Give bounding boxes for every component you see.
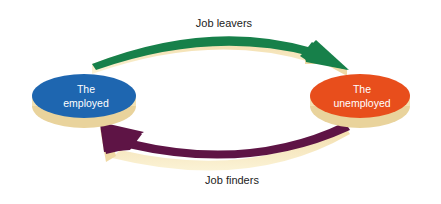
unemployed-label: The unemployed xyxy=(333,82,390,110)
job-leavers-label: Job leavers xyxy=(196,17,252,29)
job-finders-arrow xyxy=(100,122,350,171)
unemployed-label-line2: unemployed xyxy=(333,96,390,110)
employed-label-line2: employed xyxy=(63,96,109,110)
job-finders-label: Job finders xyxy=(205,174,259,186)
job-leavers-arrow xyxy=(92,36,349,76)
unemployed-label-line1: The xyxy=(333,82,390,96)
employed-label: The employed xyxy=(63,82,109,110)
flow-diagram: The employed The unemployed Job leavers … xyxy=(0,0,441,204)
employed-label-line1: The xyxy=(63,82,109,96)
